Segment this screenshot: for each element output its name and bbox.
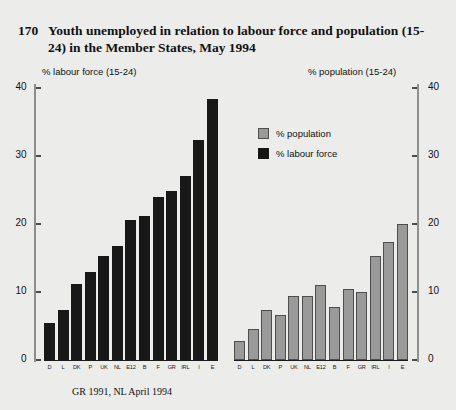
y-tick-label-20: 20	[15, 217, 26, 228]
bar-UK	[98, 256, 109, 360]
x-label-E: E	[207, 364, 218, 370]
y-tick-40	[412, 87, 417, 89]
bar-L	[248, 329, 259, 360]
y-tick-10	[412, 291, 417, 293]
bar-I	[193, 140, 204, 360]
legend-swatch-population-icon	[258, 128, 269, 139]
y-tick-30	[36, 155, 41, 157]
x-label-D: D	[44, 364, 55, 370]
bar-E12	[125, 220, 136, 360]
x-label-F: F	[153, 364, 164, 370]
bar-E	[207, 99, 218, 360]
legend-item-population: % population	[258, 128, 337, 139]
x-label-E12: E12	[315, 364, 326, 370]
x-label-F: F	[343, 364, 354, 370]
right-axis-caption: % population (15-24)	[308, 66, 396, 77]
bar-E	[397, 224, 408, 360]
bar-NL	[112, 246, 123, 360]
x-label-B: B	[139, 364, 150, 370]
left-x-axis-labels: DLDKPUKNLE12BFGRIRLIE	[44, 364, 218, 370]
legend-swatch-labour-force-icon	[258, 148, 269, 159]
x-label-NL: NL	[112, 364, 123, 370]
chart-panel-labour-force: 010203040 DLDKPUKNLE12BFGRIRLIE	[44, 88, 218, 360]
x-label-E12: E12	[125, 364, 136, 370]
figure-footnote: GR 1991, NL April 1994	[72, 386, 172, 397]
x-label-I: I	[193, 364, 204, 370]
x-label-I: I	[383, 364, 394, 370]
bar-P	[85, 272, 96, 360]
bar-P	[275, 315, 286, 360]
y-tick-label-40: 40	[428, 81, 439, 92]
x-label-NL: NL	[302, 364, 313, 370]
left-axis-caption: % labour force (15-24)	[42, 66, 137, 77]
page-title: Youth unemployed in relation to labour f…	[48, 22, 442, 56]
y-tick-label-30: 30	[428, 149, 439, 160]
figure-container: 170 Youth unemployed in relation to labo…	[0, 0, 456, 410]
bar-I	[383, 242, 394, 360]
bar-B	[329, 307, 340, 360]
x-label-P: P	[85, 364, 96, 370]
x-label-GR: GR	[356, 364, 367, 370]
bar-D	[234, 341, 245, 360]
bar-DK	[261, 310, 272, 360]
x-label-D: D	[234, 364, 245, 370]
legend-label-population: % population	[276, 128, 331, 139]
legend-label-labour-force: % labour force	[276, 148, 337, 159]
right-x-axis-labels: DLDKPUKNLE12BFGRIRLIE	[234, 364, 408, 370]
y-tick-label-10: 10	[428, 285, 439, 296]
chart-legend: % population % labour force	[258, 128, 337, 168]
bar-DK	[71, 284, 82, 360]
bar-GR	[166, 191, 177, 360]
bar-F	[153, 197, 164, 360]
x-label-L: L	[248, 364, 259, 370]
bar-L	[58, 310, 69, 360]
x-label-E: E	[397, 364, 408, 370]
x-label-DK: DK	[71, 364, 82, 370]
y-tick-20	[412, 223, 417, 225]
x-label-UK: UK	[288, 364, 299, 370]
bar-IRL	[370, 256, 381, 360]
x-label-IRL: IRL	[370, 364, 381, 370]
bar-B	[139, 216, 150, 360]
x-label-IRL: IRL	[180, 364, 191, 370]
y-tick-20	[36, 223, 41, 225]
y-tick-10	[36, 291, 41, 293]
y-tick-30	[412, 155, 417, 157]
left-plot-area	[44, 88, 218, 361]
y-tick-0	[36, 359, 41, 361]
figure-number: 170	[18, 22, 48, 39]
legend-item-labour-force: % labour force	[258, 148, 337, 159]
y-tick-label-0: 0	[21, 353, 27, 364]
y-tick-0	[412, 359, 417, 361]
bar-F	[343, 289, 354, 360]
bar-NL	[302, 296, 313, 360]
x-label-P: P	[275, 364, 286, 370]
left-y-axis-line: 010203040	[34, 84, 36, 362]
bar-IRL	[180, 176, 191, 360]
y-tick-label-40: 40	[15, 81, 26, 92]
figure-header: 170 Youth unemployed in relation to labo…	[18, 22, 442, 56]
y-tick-label-10: 10	[15, 285, 26, 296]
x-label-L: L	[58, 364, 69, 370]
bar-E12	[315, 285, 326, 360]
left-bar-group	[44, 88, 218, 360]
bar-GR	[356, 292, 367, 360]
x-label-B: B	[329, 364, 340, 370]
y-tick-label-0: 0	[428, 353, 434, 364]
y-tick-40	[36, 87, 41, 89]
y-tick-label-30: 30	[15, 149, 26, 160]
right-y-axis-line: 010203040	[417, 84, 419, 362]
bar-D	[44, 323, 55, 360]
x-label-DK: DK	[261, 364, 272, 370]
y-tick-label-20: 20	[428, 217, 439, 228]
x-label-GR: GR	[166, 364, 177, 370]
x-label-UK: UK	[98, 364, 109, 370]
bar-UK	[288, 296, 299, 360]
